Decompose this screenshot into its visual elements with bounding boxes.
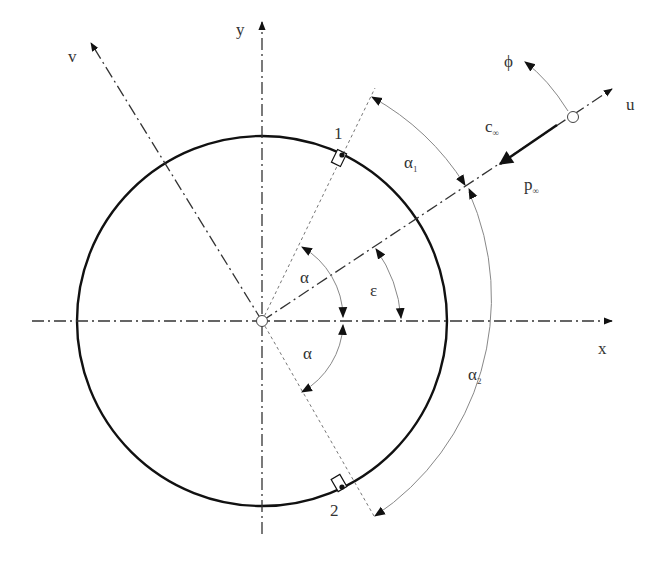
tap2-ray xyxy=(262,321,374,516)
alpha1-arc xyxy=(372,97,465,185)
epsilon-arc xyxy=(376,249,401,318)
label-tap1: 1 xyxy=(334,124,343,143)
pressure-tap-2 xyxy=(331,474,347,491)
label-phi: ϕ xyxy=(504,52,513,71)
c-inf-flow-arrow xyxy=(500,125,557,164)
label-y: y xyxy=(236,20,245,39)
tap1-ray xyxy=(262,88,375,321)
label-c-inf: c∞ xyxy=(485,117,499,138)
label-u: u xyxy=(626,95,635,114)
label-alpha-upper: α xyxy=(300,268,309,287)
phi-arc xyxy=(525,62,568,111)
alpha2-arc xyxy=(375,192,491,516)
u-axis xyxy=(262,89,612,321)
label-alpha-lower: α xyxy=(303,344,312,363)
label-x: x xyxy=(598,339,607,358)
v-axis xyxy=(91,43,262,321)
center-point xyxy=(257,316,268,327)
probe-point xyxy=(568,112,579,123)
label-alpha1: α1 xyxy=(404,153,417,174)
label-v: v xyxy=(68,47,77,66)
label-epsilon: ε xyxy=(370,281,377,300)
cylinder-probe-diagram: y v u x α α ε α1 α2 c∞ p∞ ϕ 1 2 xyxy=(0,0,652,571)
label-p-inf: p∞ xyxy=(524,175,539,196)
label-tap2: 2 xyxy=(330,501,339,520)
label-alpha2: α2 xyxy=(468,365,481,386)
